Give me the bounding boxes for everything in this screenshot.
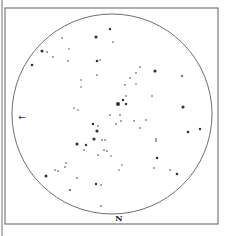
- star: [95, 183, 97, 185]
- star: [135, 72, 137, 74]
- star: [83, 149, 85, 151]
- star: [153, 69, 156, 72]
- star: [187, 131, 190, 134]
- star: [151, 95, 153, 97]
- star: [85, 144, 87, 146]
- star: [145, 119, 147, 121]
- star: [125, 95, 127, 97]
- star: [94, 35, 97, 38]
- star: [75, 142, 78, 145]
- star: [155, 140, 157, 142]
- star: [121, 164, 122, 165]
- horizon-circle: [12, 14, 212, 214]
- star: [54, 169, 56, 171]
- star: [169, 169, 171, 171]
- star: [125, 103, 127, 105]
- star: [52, 56, 54, 58]
- star: [100, 205, 102, 207]
- star: [176, 173, 179, 176]
- star: [67, 60, 69, 62]
- star: [97, 154, 99, 156]
- star: [116, 102, 120, 106]
- star: [76, 177, 78, 179]
- star: [118, 169, 119, 170]
- star: [135, 83, 136, 84]
- star-chart: [0, 0, 226, 236]
- star: [69, 189, 71, 191]
- star: [68, 48, 69, 49]
- star: [65, 162, 67, 164]
- star: [156, 157, 159, 160]
- star: [61, 37, 63, 39]
- star: [112, 41, 114, 43]
- star: [77, 109, 78, 110]
- chart-frame: [5, 8, 218, 224]
- star: [124, 84, 126, 86]
- star: [64, 166, 66, 168]
- star: [199, 128, 201, 130]
- star: [122, 99, 125, 102]
- star: [45, 175, 48, 178]
- star: [80, 86, 81, 87]
- star: [181, 75, 183, 77]
- star: [133, 120, 135, 122]
- star: [95, 129, 98, 132]
- star: [139, 127, 141, 129]
- star: [92, 123, 95, 126]
- star: [106, 150, 108, 152]
- star: [119, 114, 121, 116]
- star: [96, 60, 99, 63]
- star: [115, 123, 117, 125]
- north-label: N: [115, 214, 122, 222]
- star: [80, 79, 81, 80]
- star: [92, 137, 95, 140]
- star: [153, 167, 155, 169]
- star: [103, 149, 105, 151]
- star: [99, 59, 100, 60]
- star: [139, 66, 141, 68]
- star: [46, 51, 48, 53]
- star: [97, 125, 99, 127]
- star: [109, 114, 111, 116]
- star: [57, 170, 59, 172]
- star: [41, 50, 44, 53]
- star: [73, 107, 74, 108]
- star: [100, 184, 102, 186]
- star: [109, 28, 111, 30]
- star: [120, 120, 122, 122]
- star: [96, 74, 98, 76]
- star-field: [31, 28, 202, 207]
- star: [31, 64, 34, 67]
- star: [155, 138, 157, 140]
- star: [104, 139, 106, 141]
- star: [181, 105, 184, 108]
- star: [129, 77, 131, 79]
- star: [110, 155, 111, 156]
- direction-arrow-icon: ←: [18, 113, 26, 122]
- star: [101, 139, 103, 141]
